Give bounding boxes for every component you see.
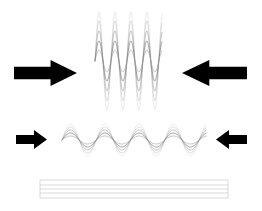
diagram-canvas — [0, 0, 262, 211]
flattened-wave-row-graphics — [0, 0, 262, 211]
flattened-wave-row — [0, 176, 262, 211]
flattened-wave-bundle — [40, 180, 228, 198]
